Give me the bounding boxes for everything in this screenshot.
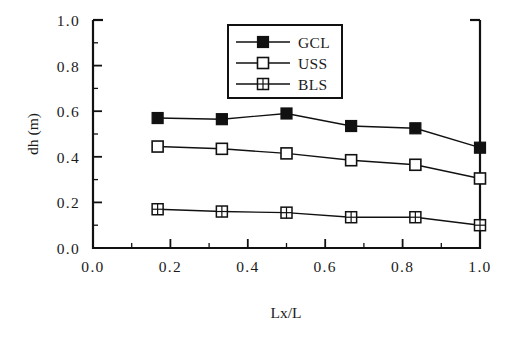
y-tick-label: 1.0	[57, 12, 80, 29]
data-point-gcl	[281, 108, 292, 119]
legend-label-uss: USS	[298, 55, 327, 72]
data-series-group	[152, 108, 485, 231]
legend-label-gcl: GCL	[298, 34, 330, 51]
x-tick-label: 0.4	[236, 258, 259, 275]
data-point-uss	[152, 141, 163, 152]
series-bls	[152, 204, 485, 231]
series-uss	[152, 141, 485, 184]
x-tick-label: 0.8	[391, 258, 414, 275]
data-point-bls	[346, 212, 357, 223]
data-point-bls	[216, 206, 227, 217]
chart-legend: GCLUSSBLS	[228, 25, 342, 98]
x-axis-tick-labels: 0.00.20.40.60.81.0	[81, 258, 491, 275]
data-point-bls	[410, 212, 421, 223]
y-tick-label: 0.6	[57, 103, 80, 120]
x-tick-label: 0.6	[314, 258, 337, 275]
legend-marker-uss	[258, 58, 269, 69]
y-tick-label: 0.0	[57, 240, 80, 257]
y-tick-label: 0.4	[57, 149, 80, 166]
data-point-bls	[152, 204, 163, 215]
legend-label-bls: BLS	[298, 76, 327, 93]
data-point-gcl	[346, 121, 357, 132]
series-line-bls	[158, 209, 480, 225]
chart-page: 0.00.20.40.60.81.0 0.00.20.40.60.81.0 GC…	[0, 0, 519, 339]
legend-marker-gcl	[258, 37, 269, 48]
data-point-uss	[281, 148, 292, 159]
x-tick-label: 1.0	[468, 258, 491, 275]
y-axis-tick-labels: 0.00.20.40.60.81.0	[57, 12, 80, 257]
data-point-gcl	[410, 123, 421, 134]
data-point-uss	[410, 159, 421, 170]
y-axis-title: dh (m)	[24, 113, 42, 155]
data-point-gcl	[216, 114, 227, 125]
x-tick-label: 0.0	[81, 258, 104, 275]
data-point-gcl	[475, 142, 486, 153]
series-line-uss	[158, 147, 480, 179]
series-line-gcl	[158, 113, 480, 147]
y-tick-label: 0.8	[57, 58, 80, 75]
data-point-uss	[346, 155, 357, 166]
data-point-bls	[281, 207, 292, 218]
data-point-uss	[216, 143, 227, 154]
line-chart: 0.00.20.40.60.81.0 0.00.20.40.60.81.0 GC…	[0, 0, 519, 339]
data-point-bls	[475, 220, 486, 231]
x-tick-label: 0.2	[159, 258, 182, 275]
data-point-gcl	[152, 113, 163, 124]
legend-marker-bls	[258, 79, 269, 90]
y-tick-label: 0.2	[57, 194, 80, 211]
series-gcl	[152, 108, 485, 153]
data-point-uss	[475, 173, 486, 184]
x-axis-title: Lx/L	[271, 304, 302, 321]
